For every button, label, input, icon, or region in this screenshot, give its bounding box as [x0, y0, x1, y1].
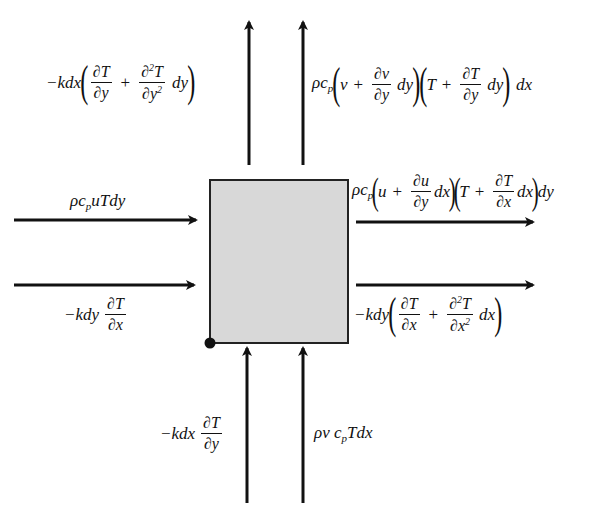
fraction-dT-dx: ∂T ∂x: [493, 173, 514, 210]
label-right-conduction-out: −kdy ( ∂T ∂x + ∂2T ∂x2 dx ): [354, 292, 502, 336]
right-paren: ): [187, 60, 195, 104]
left-paren: (: [333, 62, 341, 106]
label-bottom-convection-in: ρv cpTdx: [314, 424, 373, 444]
right-paren: ): [532, 172, 539, 210]
label-left-conduction-in: −kdy ∂T ∂x: [64, 296, 129, 333]
left-paren: (: [453, 172, 460, 210]
label-top-right-convection: ρcp ( v + ∂v ∂y dy )( T + ∂T ∂y dy ) dx: [312, 62, 532, 106]
fraction-dT-dx: ∂T ∂x: [399, 296, 420, 333]
fraction-dT-dy: ∂T ∂y: [460, 66, 481, 103]
label-bottom-conduction-in: −kdx ∂T ∂y: [160, 415, 225, 452]
right-paren: ): [503, 62, 511, 106]
right-paren: ): [494, 292, 502, 336]
term-prefix: −kdx: [46, 74, 81, 91]
left-paren: (: [372, 172, 379, 210]
control-volume-box: [210, 180, 348, 343]
label-right-convection-out: ρcp ( u + ∂u ∂y dx )( T + ∂T ∂x dx ) dy: [352, 172, 554, 210]
left-paren: (: [419, 62, 427, 106]
fraction-dT-dy: ∂T ∂y: [91, 64, 112, 101]
energy-balance-diagram: −kdx ( ∂T ∂y + ∂2T ∂y2 dy ) ρcp ( v + ∂v…: [0, 0, 608, 514]
fraction-dT-dx: ∂T ∂x: [105, 296, 126, 333]
fraction-dv-dy: ∂v ∂y: [372, 66, 391, 103]
left-paren: (: [388, 292, 396, 336]
label-left-convection-in: ρcpuTdy: [70, 192, 125, 212]
origin-dot: [205, 338, 216, 349]
label-top-left-conduction: −kdx ( ∂T ∂y + ∂2T ∂y2 dy ): [46, 60, 195, 104]
fraction-dT-dy: ∂T ∂y: [201, 415, 222, 452]
fraction-d2T-dx2: ∂2T ∂x2: [447, 295, 473, 334]
fraction-du-dy: ∂u ∂y: [411, 173, 431, 210]
left-paren: (: [80, 60, 88, 104]
fraction-d2T-dy2: ∂2T ∂y2: [139, 63, 165, 102]
